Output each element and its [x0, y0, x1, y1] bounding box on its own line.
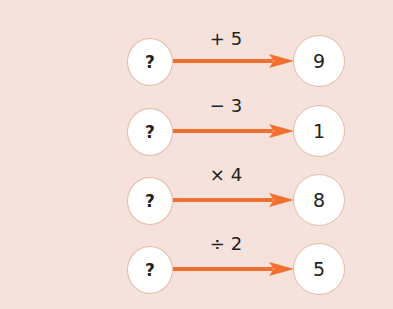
- unknown-input: ?: [145, 122, 155, 142]
- output-circle: 9: [293, 35, 345, 87]
- operation-row: + 5 ? 9: [0, 26, 393, 96]
- input-circle: ?: [127, 38, 173, 86]
- input-circle: ?: [127, 108, 173, 156]
- arrow-icon: [173, 53, 294, 69]
- operation-row: − 3 ? 1: [0, 96, 393, 166]
- unknown-input: ?: [145, 191, 155, 211]
- input-circle: ?: [127, 177, 173, 225]
- operation-row: × 4 ? 8: [0, 166, 393, 236]
- operation-label: × 4: [196, 166, 256, 184]
- unknown-input: ?: [145, 52, 155, 72]
- arrow-icon: [173, 261, 294, 277]
- output-value: 1: [313, 120, 325, 142]
- output-circle: 5: [293, 243, 345, 295]
- output-circle: 1: [293, 105, 345, 157]
- output-value: 5: [313, 258, 325, 280]
- arrow-icon: [173, 192, 294, 208]
- operation-row: ÷ 2 ? 5: [0, 236, 393, 306]
- output-value: 8: [313, 189, 325, 211]
- unknown-input: ?: [145, 260, 155, 280]
- output-circle: 8: [293, 174, 345, 226]
- output-value: 9: [313, 50, 325, 72]
- arrow-icon: [173, 123, 294, 139]
- operation-label: − 3: [196, 97, 256, 115]
- operation-label: ÷ 2: [196, 235, 256, 253]
- operation-label: + 5: [196, 30, 256, 48]
- input-circle: ?: [127, 246, 173, 294]
